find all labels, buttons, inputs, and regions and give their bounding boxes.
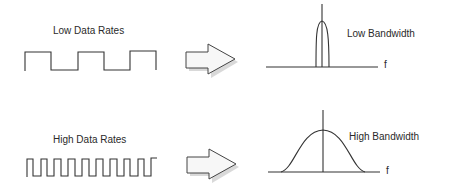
low-axis-f-label: f: [384, 59, 387, 70]
high-axis-f-label: f: [386, 165, 389, 176]
high-rate-arrow-icon: [187, 149, 239, 183]
high-rate-square-wave: [27, 158, 157, 177]
low-data-rates-label: Low Data Rates: [53, 25, 124, 36]
low-rate-square-wave: [25, 51, 156, 71]
high-data-rates-label: High Data Rates: [53, 134, 126, 145]
low-rate-arrow-icon: [186, 44, 238, 78]
high-bandwidth-label: High Bandwidth: [349, 131, 419, 142]
low-bandwidth-label: Low Bandwidth: [347, 28, 415, 39]
